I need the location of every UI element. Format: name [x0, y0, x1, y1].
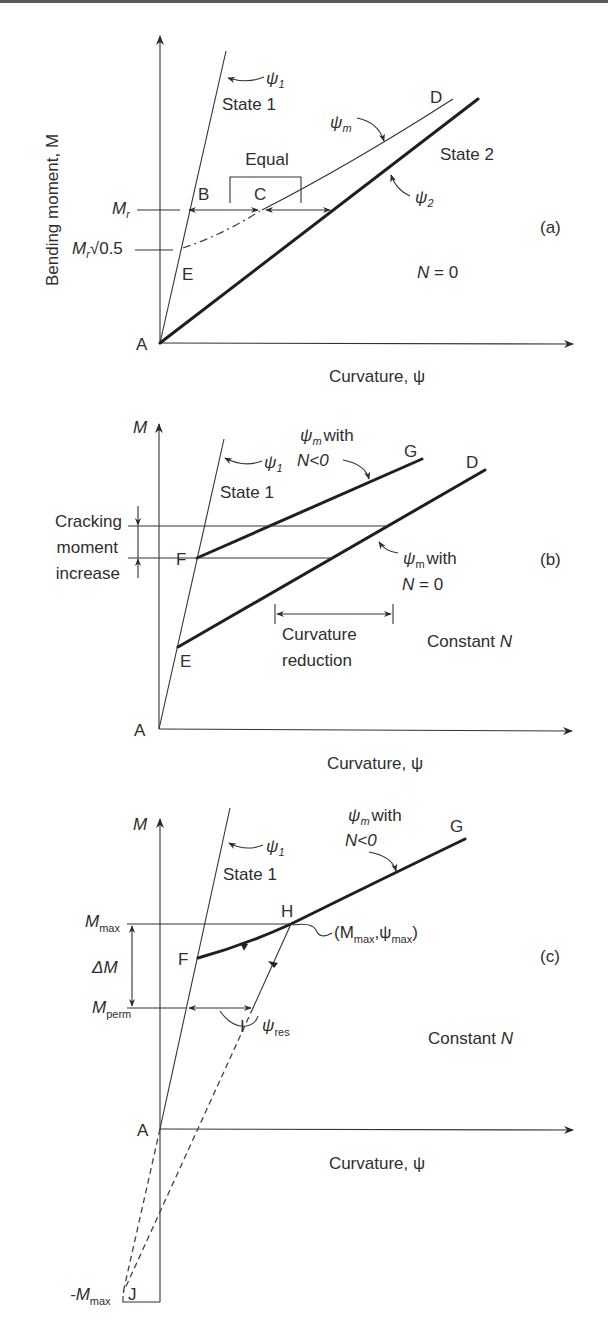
panel-b-tag: (b) — [540, 550, 561, 569]
psim-zero-label-1: ψmwith — [403, 549, 457, 570]
state2-line — [160, 99, 478, 343]
equal-label: Equal — [245, 150, 288, 169]
x-axis-label: Curvature, ψ — [327, 754, 423, 773]
psim-neg-leader — [343, 460, 369, 479]
psim-neg-label-1: ψmwith — [348, 806, 402, 827]
y-axis-label: M — [133, 418, 148, 437]
state1-label: State 1 — [220, 483, 274, 502]
mperm-label: Mperm — [92, 998, 131, 1020]
x-axis — [159, 729, 572, 731]
point-i-label: I — [240, 1017, 245, 1036]
residual-dashed-line — [123, 1008, 253, 1293]
cracking-label-1: Cracking — [55, 512, 122, 531]
panel-a-tag: (a) — [540, 218, 561, 237]
curv-red-label-2: reduction — [282, 651, 352, 670]
point-j-label: J — [128, 1285, 137, 1304]
hpoint-leader — [293, 924, 332, 936]
psim-neg-label-2: N<0 — [297, 451, 329, 470]
x-axis — [160, 1129, 573, 1130]
psires-label: ψres — [262, 1016, 290, 1038]
psim-zero-leader — [379, 542, 398, 553]
psi1-label: ψ1 — [266, 837, 285, 858]
psim-neg-label-2: N<0 — [345, 831, 377, 850]
point-g-label: G — [450, 817, 463, 836]
psim-neg-line — [197, 459, 422, 558]
reversal-dashed-line — [123, 1129, 160, 1293]
point-f-label: F — [176, 550, 186, 569]
point-e-label: E — [182, 265, 193, 284]
psi1-label: ψ1 — [266, 69, 285, 90]
psi1-leader — [225, 458, 262, 464]
psi2-leader — [391, 175, 410, 196]
unloading-direction-icon — [268, 961, 278, 968]
mr-label: Mr — [112, 199, 131, 220]
state1-label: State 1 — [223, 865, 277, 884]
state2-label: State 2 — [440, 145, 494, 164]
state1-line — [159, 439, 224, 729]
constant-n-label: Constant N — [427, 632, 513, 651]
x-axis-label: Curvature, ψ — [329, 367, 425, 386]
n-zero-label: N = 0 — [417, 263, 458, 282]
psim-neg-label-1: ψmwith — [300, 426, 354, 447]
psim-dashed-segment — [183, 211, 260, 248]
point-d-label: D — [466, 453, 478, 472]
point-h-label: H — [281, 902, 293, 921]
panel-a: Bending moment, M Curvature, ψ Equal B C… — [43, 36, 573, 386]
psim-label: ψm — [330, 113, 352, 134]
panel-c: M Curvature, ψ Mmax ΔM Mperm -Mmax F H — [70, 806, 573, 1307]
psires-brace — [220, 1011, 258, 1026]
point-e-label: E — [180, 652, 191, 671]
cracking-label-3: increase — [56, 564, 120, 583]
psi1-label: ψ1 — [264, 453, 283, 474]
psi1-leader — [228, 77, 264, 81]
y-axis-label: Bending moment, M — [43, 134, 62, 286]
point-f-label: F — [178, 950, 188, 969]
psim-leader — [357, 118, 384, 141]
mr-sqrt05-label: Mr√0.5 — [72, 239, 123, 260]
point-a-label: A — [134, 721, 146, 740]
mmax-label: Mmax — [85, 912, 120, 934]
curv-red-label-1: Curvature — [282, 625, 357, 644]
point-d-label: D — [430, 88, 442, 107]
point-a-label: A — [137, 1121, 149, 1140]
psi1-leader — [229, 843, 263, 848]
constant-n-label: Constant N — [428, 1029, 514, 1048]
x-axis — [160, 343, 573, 344]
cracking-label-2: moment — [57, 538, 119, 557]
point-b-label: B — [198, 185, 209, 204]
panel-c-tag: (c) — [540, 947, 560, 966]
point-a-label: A — [136, 335, 148, 354]
psim-neg-curve — [198, 839, 465, 958]
psim-neg-leader — [369, 852, 396, 871]
hpoint-label: (Mmax,ψmax) — [334, 923, 418, 945]
x-axis-label: Curvature, ψ — [329, 1154, 425, 1173]
neg-mmax-label: -Mmax — [70, 1285, 111, 1307]
state1-label: State 1 — [222, 95, 276, 114]
point-c-label: C — [254, 185, 266, 204]
point-g-label: G — [404, 442, 417, 461]
figure: Bending moment, M Curvature, ψ Equal B C… — [0, 0, 608, 1335]
delta-m-label: ΔM — [91, 958, 118, 977]
panel-b: M Curvature, ψ Cracking moment increase … — [55, 418, 572, 773]
psim-zero-label-2: N = 0 — [402, 575, 443, 594]
y-axis-label: M — [133, 815, 148, 834]
psi2-label: ψ2 — [415, 188, 434, 209]
